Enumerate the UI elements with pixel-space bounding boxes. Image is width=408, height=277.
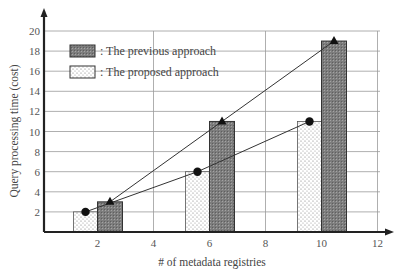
circle-marker-icon [193, 168, 201, 176]
y-axis-arrow-icon [41, 8, 48, 17]
legend-swatch-proposed [70, 66, 95, 78]
bar-proposed [298, 121, 322, 232]
y-tick-label: 6 [35, 166, 41, 178]
bar-previous [322, 41, 347, 232]
x-tick-label: 4 [151, 237, 157, 249]
y-tick-label: 4 [35, 186, 41, 198]
legend-label-previous: : The previous approach [100, 44, 216, 58]
legend-label-proposed: : The proposed approach [100, 65, 219, 79]
y-tick-label: 14 [29, 85, 41, 97]
x-tick-label: 12 [372, 237, 383, 249]
x-axis-arrow-icon [385, 229, 394, 236]
x-tick-label: 10 [316, 237, 328, 249]
circle-marker-icon [81, 208, 89, 216]
bar-previous [210, 121, 235, 232]
y-tick-label: 18 [29, 45, 41, 57]
y-tick-label: 20 [29, 25, 41, 37]
y-tick-label: 8 [35, 146, 41, 158]
legend-swatch-previous [70, 45, 95, 57]
y-axis-label: Query processing time (cost) [8, 64, 21, 197]
y-tick-label: 10 [29, 126, 41, 138]
triangle-marker-icon [106, 197, 115, 205]
circle-marker-icon [305, 117, 313, 125]
legend: : The previous approach : The proposed a… [70, 44, 219, 79]
x-tick-label: 8 [263, 237, 269, 249]
bar-chart: 246810121416182024681012 # of metadata r… [0, 0, 408, 277]
bar-proposed [186, 172, 210, 232]
y-tick-label: 16 [29, 65, 41, 77]
x-axis-label: # of metadata registries [158, 256, 266, 269]
y-tick-label: 12 [29, 105, 40, 117]
y-tick-label: 2 [35, 206, 41, 218]
x-tick-label: 6 [207, 237, 213, 249]
triangle-marker-icon [330, 36, 339, 44]
x-tick-label: 2 [95, 237, 101, 249]
triangle-marker-icon [218, 116, 227, 124]
